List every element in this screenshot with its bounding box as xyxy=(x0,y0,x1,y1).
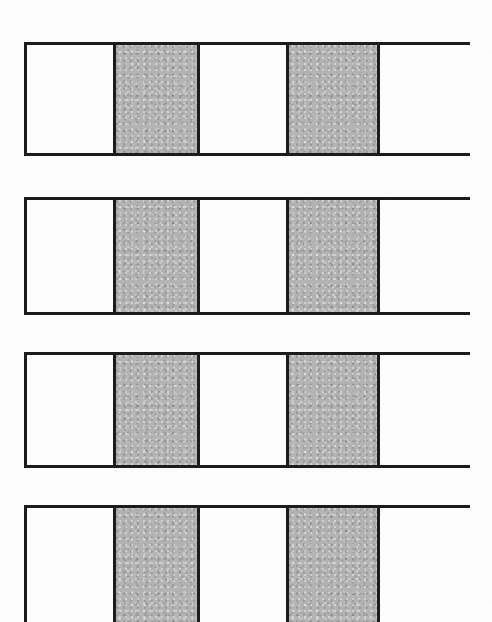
bar-1-cell-3-white xyxy=(200,45,289,153)
bar-2-cell-5-white xyxy=(380,200,473,312)
bar-4-cell-5-white xyxy=(380,508,473,622)
bar-4-cell-4-gray xyxy=(289,508,380,622)
bar-2-cell-4-gray xyxy=(289,200,380,312)
bar-3-cell-2-gray xyxy=(116,355,200,465)
bar-4-cell-2-gray xyxy=(116,508,200,622)
bar-2 xyxy=(24,197,470,315)
bar-1 xyxy=(24,42,470,156)
bar-2-cell-3-white xyxy=(200,200,289,312)
bar-3 xyxy=(24,352,470,468)
bar-4 xyxy=(24,505,470,622)
bar-2-cell-2-gray xyxy=(116,200,200,312)
bar-4-cell-1-white xyxy=(27,508,116,622)
bar-1-cell-1-white xyxy=(27,45,116,153)
bar-1-cell-5-white xyxy=(380,45,473,153)
bar-1-cell-2-gray xyxy=(116,45,200,153)
bar-3-cell-1-white xyxy=(27,355,116,465)
bar-4-cell-3-white xyxy=(200,508,289,622)
figure-canvas xyxy=(0,0,492,622)
bar-3-cell-3-white xyxy=(200,355,289,465)
bar-1-cell-4-gray xyxy=(289,45,380,153)
bar-3-cell-4-gray xyxy=(289,355,380,465)
bar-2-cell-1-white xyxy=(27,200,116,312)
bar-3-cell-5-white xyxy=(380,355,473,465)
